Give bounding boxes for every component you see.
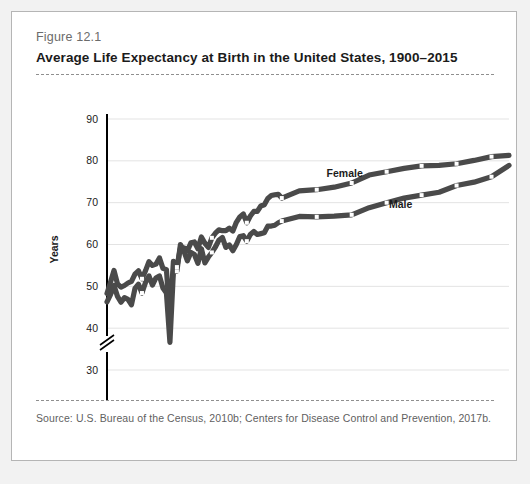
series-annotation-male: Male (389, 198, 413, 210)
marker-female-1970 (350, 181, 354, 185)
y-tick-labels-group: 030405060708090 (86, 113, 98, 401)
marker-female-1980 (385, 170, 389, 174)
marker-male-1920 (175, 269, 179, 273)
marker-female-1990 (420, 164, 424, 168)
marker-male-1910 (140, 291, 144, 295)
y-tick-label-70: 70 (86, 196, 98, 208)
axis-break-mark-lower (100, 340, 114, 350)
y-axis-title-group: Years (48, 235, 60, 263)
data-series-group (107, 155, 509, 342)
marker-male-2000 (455, 184, 459, 188)
y-tick-label-80: 80 (86, 154, 98, 166)
marker-male-1960 (315, 215, 319, 219)
marker-female-1910 (140, 277, 144, 281)
screenshot-root: Figure 12.1 Average Life Expectancy at B… (0, 0, 530, 484)
figure-title: Average Life Expectancy at Birth in the … (36, 50, 458, 65)
marker-female-1960 (315, 188, 319, 192)
marker-female-1940 (245, 221, 249, 225)
marker-female-1950 (280, 196, 284, 200)
marker-female-1920 (175, 265, 179, 269)
y-axis-title: Years (48, 235, 60, 263)
marker-male-1940 (245, 239, 249, 243)
axis-break-mark-upper (100, 335, 114, 345)
marker-male-2010 (490, 175, 494, 179)
y-tick-label-40: 40 (86, 322, 98, 334)
y-tick-label-50: 50 (86, 280, 98, 292)
marker-male-1990 (420, 193, 424, 197)
y-tick-label-60: 60 (86, 238, 98, 250)
marker-male-1970 (350, 213, 354, 217)
marker-male-1950 (280, 219, 284, 223)
life-expectancy-line-chart: 030405060708090 190019101920193019401950… (12, 74, 518, 400)
figure-card: Figure 12.1 Average Life Expectancy at B… (11, 11, 517, 461)
y-tick-label-30: 30 (86, 364, 98, 376)
marker-male-1930 (210, 250, 214, 254)
y-tick-label-90: 90 (86, 113, 98, 125)
marker-female-2000 (455, 162, 459, 166)
chart-plot-area: 030405060708090 190019101920193019401950… (12, 74, 518, 400)
data-markers-group (140, 155, 494, 295)
source-note: Source: U.S. Bureau of the Census, 2010b… (36, 412, 498, 424)
marker-female-1930 (210, 236, 214, 240)
dashed-divider-bottom (36, 400, 494, 401)
figure-number: Figure 12.1 (36, 30, 101, 44)
series-annotation-female: Female (327, 167, 363, 179)
marker-female-2010 (490, 155, 494, 159)
